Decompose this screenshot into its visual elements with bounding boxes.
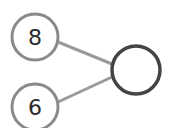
connector-line-bottom xyxy=(58,77,112,102)
part-circle-bottom: 6 xyxy=(12,84,58,128)
number-bond-diagram: 8 6 xyxy=(0,0,172,128)
whole-circle[interactable] xyxy=(112,46,160,94)
part-circle-top: 8 xyxy=(12,14,58,60)
connector-line-top xyxy=(58,42,112,64)
part-value-top: 8 xyxy=(28,25,42,50)
part-value-bottom: 6 xyxy=(28,95,42,120)
